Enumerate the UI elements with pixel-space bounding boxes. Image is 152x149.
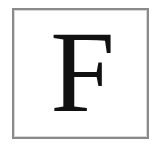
letter-card: F <box>12 8 149 139</box>
letter-glyph: F <box>14 14 147 130</box>
